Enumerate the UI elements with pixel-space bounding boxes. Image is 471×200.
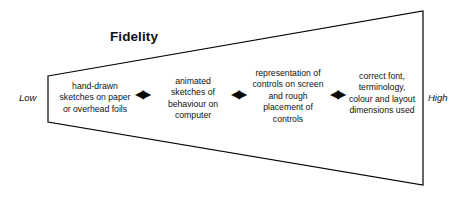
stage-text-line: behaviour on (157, 99, 229, 110)
stage-text-line: dimensions used (341, 105, 423, 116)
stage-text-line: controls (244, 114, 332, 125)
stage-text-line: and rough (244, 91, 332, 102)
stage-item-1: hand-drawn sketches on paper or overhead… (53, 81, 137, 115)
stage-text-line: terminology, (341, 82, 423, 93)
stage-text-line: animated (157, 76, 229, 87)
stage-text-line: sketches of (157, 87, 229, 98)
page-title: Fidelity (86, 29, 182, 44)
double-arrow-icon: ◀▶ (231, 88, 245, 100)
stage-text-line: placement of (244, 102, 332, 113)
stage-item-4: correct font, terminology, colour and la… (341, 71, 423, 117)
axis-label-high: High (428, 92, 448, 103)
stage-text-line: correct font, (341, 71, 423, 82)
stage-text-line: hand-drawn (53, 81, 137, 92)
stage-item-3: representation of controls on screen and… (244, 68, 332, 125)
stage-item-2: animated sketches of behaviour on comput… (157, 76, 229, 122)
fidelity-funnel-diagram: Fidelity Low High hand-drawn sketches on… (0, 0, 471, 200)
stage-text-line: controls on screen (244, 79, 332, 90)
axis-label-low: Low (19, 92, 36, 103)
stage-text-line: colour and layout (341, 94, 423, 105)
double-arrow-icon: ◀▶ (135, 88, 149, 100)
stage-text-line: sketches on paper (53, 92, 137, 103)
stage-text-line: computer (157, 110, 229, 121)
stage-text-line: representation of (244, 68, 332, 79)
stage-text-line: or overhead foils (53, 104, 137, 115)
